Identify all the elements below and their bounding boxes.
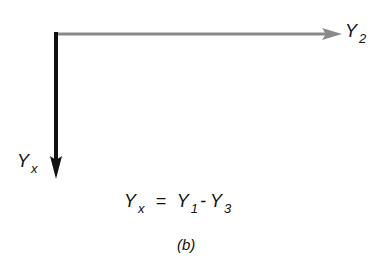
axes-drawing bbox=[0, 0, 373, 258]
y2-label-base: Y bbox=[345, 21, 357, 41]
eq-lhs-base: Y bbox=[124, 191, 136, 211]
y2-label: Y2 bbox=[345, 22, 366, 45]
yx-label-sub: x bbox=[31, 161, 38, 176]
eq-t1-base: Y bbox=[177, 191, 189, 211]
yx-label-base: Y bbox=[17, 151, 29, 171]
eq-lhs-sub: x bbox=[138, 201, 145, 216]
figure-caption: (b) bbox=[177, 236, 195, 253]
eq-t2-sub: 3 bbox=[224, 201, 231, 216]
y2-label-sub: 2 bbox=[359, 31, 366, 46]
eq-t2-base: Y bbox=[210, 191, 222, 211]
eq-t1-sub: 1 bbox=[191, 201, 198, 216]
equation: Yx = Y1-Y3 bbox=[124, 192, 231, 215]
yx-label: Yx bbox=[17, 152, 38, 175]
eq-minus: - bbox=[200, 191, 206, 211]
eq-equals: = bbox=[156, 191, 167, 211]
